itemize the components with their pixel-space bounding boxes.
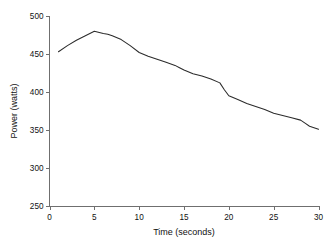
chart-container: 250300350400450500 Power (watts) 0510152… (0, 0, 334, 249)
x-tick-label-0: 0 (47, 213, 52, 222)
x-tick-label-20: 20 (224, 213, 234, 222)
x-tick-label-10: 10 (135, 213, 145, 222)
y-axis-title: Power (watts) (9, 83, 19, 138)
y-tick-label-350: 350 (30, 126, 44, 135)
y-tick-label-400: 400 (30, 88, 44, 97)
chart-background (0, 0, 334, 249)
power-vs-time-line-chart: 250300350400450500 Power (watts) 0510152… (0, 0, 334, 249)
y-tick-label-500: 500 (30, 12, 44, 21)
y-tick-label-300: 300 (30, 164, 44, 173)
x-axis-title: Time (seconds) (153, 227, 215, 237)
y-tick-label-450: 450 (30, 50, 44, 59)
x-tick-label-30: 30 (314, 213, 324, 222)
x-tick-label-5: 5 (92, 213, 97, 222)
y-tick-label-250: 250 (30, 202, 44, 211)
x-tick-label-25: 25 (269, 213, 279, 222)
x-tick-label-15: 15 (179, 213, 189, 222)
